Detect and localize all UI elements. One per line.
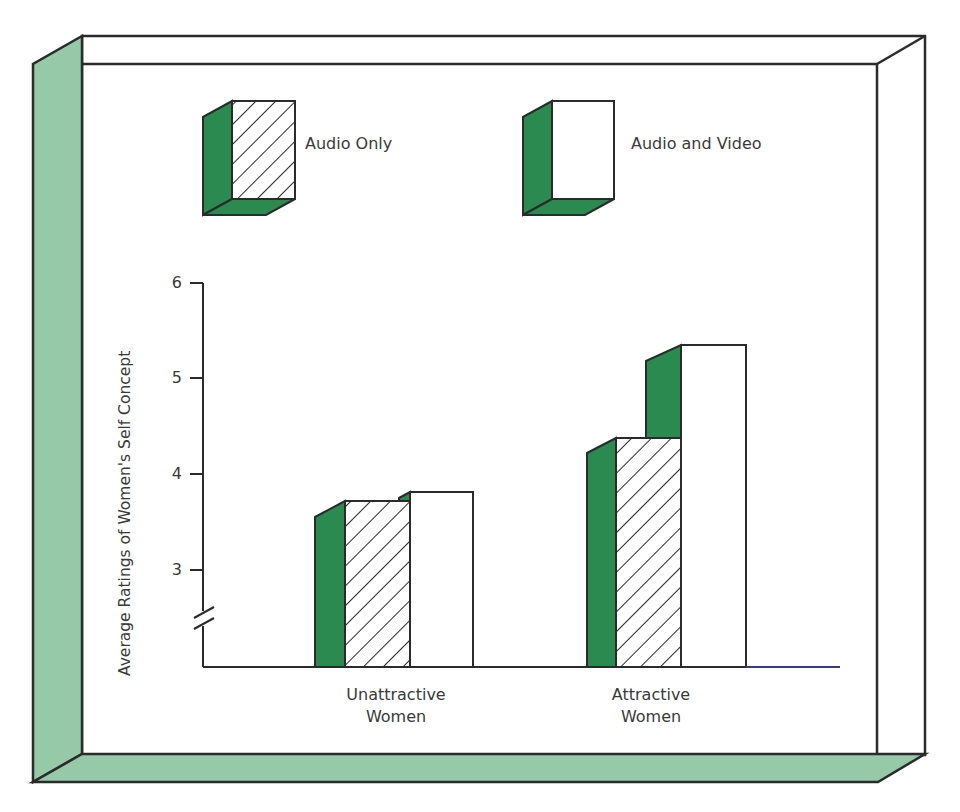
legend-label-audio-video: Audio and Video — [631, 134, 762, 153]
chart-canvas — [0, 0, 960, 812]
category-label-unattractive-line1: Unattractive — [336, 684, 456, 706]
tick-label-6: 6 — [162, 273, 182, 292]
legend-swatch-audio-only — [203, 101, 295, 215]
tick-label-5: 5 — [162, 368, 182, 387]
category-label-attractive: Attractive Women — [591, 684, 711, 728]
tick-label-3: 3 — [162, 560, 182, 579]
bar-group-unattractive — [315, 492, 473, 667]
frame-bottom-face — [33, 754, 925, 782]
bar-attractive-audio-only — [616, 438, 681, 667]
category-label-attractive-line1: Attractive — [591, 684, 711, 706]
legend-swatch-audio-video — [523, 101, 614, 215]
category-label-unattractive: Unattractive Women — [336, 684, 456, 728]
bar-unattractive-audio-only — [345, 501, 410, 667]
legend-label-audio-only: Audio Only — [305, 134, 392, 153]
tick-label-4: 4 — [162, 464, 182, 483]
bar-attractive-audio-video — [681, 345, 746, 667]
frame — [33, 36, 925, 782]
y-axis-title: Average Ratings of Women's Self Concept — [116, 351, 134, 676]
category-label-unattractive-line2: Women — [336, 706, 456, 728]
frame-left-face — [33, 36, 82, 782]
bar-unattractive-audio-video — [410, 492, 473, 667]
category-label-attractive-line2: Women — [591, 706, 711, 728]
